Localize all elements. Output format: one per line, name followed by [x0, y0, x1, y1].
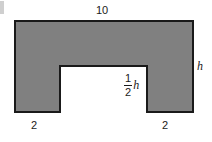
dimension-label-bottom-right-leg: 2: [162, 120, 168, 131]
u-shape-polygon: [15, 21, 193, 112]
fraction-denominator: 2: [124, 86, 132, 98]
fraction-variable-h: h: [133, 79, 139, 92]
fraction-one-half: 1 2: [124, 73, 132, 98]
dimension-label-right-height: h: [197, 60, 203, 72]
dimension-label-top-width: 10: [96, 5, 108, 16]
dimension-label-bottom-left-leg: 2: [31, 120, 37, 131]
dimension-label-notch-depth: 1 2 h: [124, 73, 139, 98]
geometry-figure: 10 h 1 2 h 2 2: [0, 0, 212, 142]
fraction-numerator: 1: [124, 73, 132, 85]
